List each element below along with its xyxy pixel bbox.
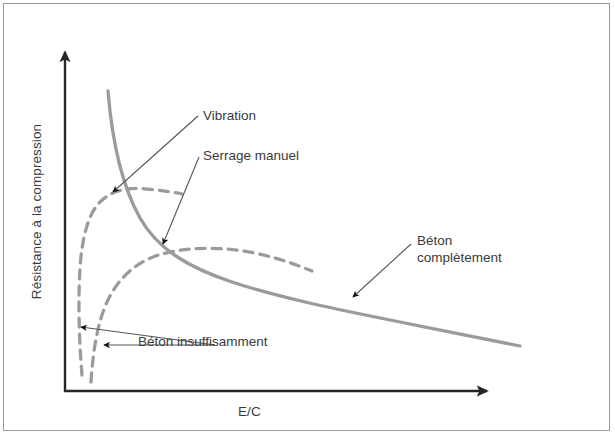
x-axis-title: E/C bbox=[238, 404, 261, 419]
y-axis-title: Résistance à la compression bbox=[29, 97, 44, 327]
annotation-beton-completement-line1: Béton bbox=[417, 232, 502, 249]
leader-vibration bbox=[113, 116, 198, 192]
annotation-beton-completement: Béton complètement bbox=[417, 232, 502, 266]
axis-group bbox=[64, 52, 487, 392]
annotation-beton-completement-line2: complètement bbox=[417, 249, 502, 266]
annotation-vibration: Vibration bbox=[203, 107, 256, 124]
curve-beton-completement bbox=[108, 91, 520, 346]
leader-serrage bbox=[163, 157, 199, 244]
plot-canvas bbox=[0, 0, 615, 436]
annotation-serrage-manuel: Serrage manuel bbox=[203, 147, 299, 164]
annotation-beton-insuffisamment: Béton insuffisamment bbox=[138, 333, 268, 350]
figure-root: Résistance à la compression E/C Vibratio… bbox=[0, 0, 615, 436]
leader-beton-completement bbox=[353, 244, 411, 297]
